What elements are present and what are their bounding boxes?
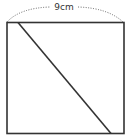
- figure: 9cm: [0, 0, 128, 137]
- diagonal-line: [18, 23, 111, 134]
- dimension-arc-right: [78, 7, 123, 22]
- dimension-label: 9cm: [54, 2, 73, 12]
- dimension-arc-left: [7, 7, 50, 22]
